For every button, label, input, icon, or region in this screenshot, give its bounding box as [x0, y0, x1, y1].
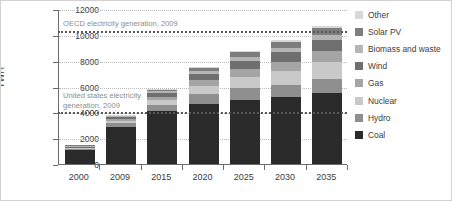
stacked-bar-chart: TWH 020004000600080001000012000 20002009… [0, 0, 452, 201]
x-axis-tick-mark [99, 165, 100, 170]
bar-segment-hydro [271, 85, 301, 98]
legend-item-wind[interactable]: Wind [355, 58, 450, 75]
legend-item-other[interactable]: Other [355, 6, 450, 23]
legend-item-label: Wind [368, 61, 387, 71]
legend-item-label: Solar PV [368, 27, 401, 37]
bar-segment-hydro [230, 88, 260, 100]
x-axis-tick-mark [306, 165, 307, 170]
legend-swatch-icon [355, 114, 363, 122]
bar-segment-coal [230, 100, 260, 164]
bar-segment-gas [271, 62, 301, 71]
gridline [59, 36, 347, 37]
legend-item-coal[interactable]: Coal [355, 126, 450, 143]
bar-2035 [312, 26, 342, 164]
bar-segment-coal [147, 111, 177, 164]
gridline [59, 10, 347, 11]
legend-swatch-icon [355, 79, 363, 87]
bar-segment-hydro [189, 94, 219, 104]
legend-item-hydro[interactable]: Hydro [355, 109, 450, 126]
bar-segment-wind [312, 40, 342, 52]
bar-2030 [271, 40, 301, 164]
bar-segment-nuclear [230, 77, 260, 88]
bar-2009 [106, 115, 136, 164]
legend-item-label: Nuclear [368, 96, 397, 106]
reference-line-label: United states electricity generation, 20… [63, 91, 141, 110]
x-axis-tick-mark [347, 165, 348, 170]
bar-2020 [189, 67, 219, 164]
x-axis-tick-mark [264, 165, 265, 170]
plot-area [58, 10, 347, 165]
bar-segment-nuclear [189, 86, 219, 94]
x-axis-tick-mark [182, 165, 183, 170]
bar-2000 [65, 145, 95, 165]
y-axis-tick-mark [53, 165, 58, 166]
legend-item-label: Other [368, 10, 389, 20]
bar-segment-coal [312, 93, 342, 164]
bar-segment-gas [312, 51, 342, 62]
legend-item-label: Coal [368, 130, 385, 140]
legend-swatch-icon [355, 62, 363, 70]
bar-segment-hydro [312, 79, 342, 93]
legend: OtherSolar PVBiomass and wasteWindGasNuc… [355, 6, 450, 144]
bar-segment-nuclear [312, 62, 342, 79]
legend-swatch-icon [355, 28, 363, 36]
bar-2025 [230, 51, 260, 164]
legend-swatch-icon [355, 45, 363, 53]
bar-segment-coal [271, 97, 301, 164]
gridline [59, 62, 347, 63]
bar-segment-nuclear [271, 71, 301, 85]
legend-item-label: Gas [368, 78, 383, 88]
bar-2015 [147, 89, 177, 164]
reference-line [58, 112, 347, 114]
x-axis-tick-mark [141, 165, 142, 170]
bar-segment-coal [106, 127, 136, 164]
x-axis-tick-label: 2035 [299, 172, 353, 182]
legend-item-label: Biomass and waste [368, 44, 441, 54]
legend-item-gas[interactable]: Gas [355, 75, 450, 92]
legend-item-label: Hydro [368, 113, 390, 123]
x-axis-tick-mark [223, 165, 224, 170]
legend-item-solar-pv[interactable]: Solar PV [355, 23, 450, 40]
bar-segment-coal [65, 150, 95, 164]
legend-swatch-icon [355, 131, 363, 139]
legend-item-biomass-and-waste[interactable]: Biomass and waste [355, 40, 450, 57]
y-axis-title: TWH [0, 67, 6, 88]
legend-swatch-icon [355, 97, 363, 105]
legend-item-nuclear[interactable]: Nuclear [355, 92, 450, 109]
bar-segment-wind [271, 52, 301, 62]
reference-line-label: OECD electricity generation, 2009 [63, 19, 178, 28]
bar-segment-wind [230, 61, 260, 69]
bar-segment-gas [230, 69, 260, 77]
legend-swatch-icon [355, 11, 363, 19]
reference-line [58, 31, 347, 33]
